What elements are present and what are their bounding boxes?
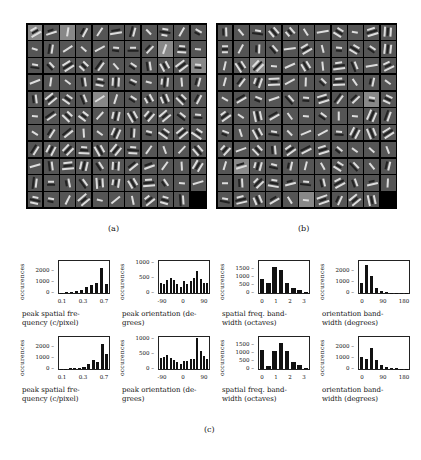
filter-cell bbox=[191, 108, 206, 123]
histogram-bar bbox=[279, 270, 283, 293]
histogram-bar bbox=[390, 293, 394, 294]
y-tick-label: 2000 – bbox=[332, 267, 354, 273]
filter-cell bbox=[158, 108, 173, 123]
x-axis-label: peak orientation (de-grees) bbox=[122, 310, 214, 327]
y-tick-label: 1000 – bbox=[332, 354, 354, 360]
filter-cell bbox=[191, 159, 206, 174]
histogram: occurences0 –500 –1000 –-90090peak orien… bbox=[118, 328, 218, 418]
histogram-bar bbox=[176, 284, 178, 293]
x-axis-label: orientation band-width (degrees) bbox=[322, 310, 414, 327]
histogram-bar bbox=[173, 280, 175, 293]
filter-cell bbox=[76, 41, 91, 56]
histogram-bar bbox=[87, 364, 90, 369]
filter-cell bbox=[125, 58, 140, 73]
filter-cell bbox=[44, 92, 59, 107]
filter-cell bbox=[266, 92, 281, 107]
filter-cell bbox=[348, 142, 363, 157]
filter-cell bbox=[60, 142, 75, 157]
filter-cell bbox=[218, 75, 233, 90]
filter-cell bbox=[125, 41, 140, 56]
histogram-bar bbox=[193, 278, 195, 293]
filter-cell bbox=[266, 142, 281, 157]
histogram-bar bbox=[272, 267, 276, 293]
filter-cell bbox=[125, 92, 140, 107]
filter-cell bbox=[332, 58, 347, 73]
y-tick-label: 1000 – bbox=[232, 273, 254, 279]
filter-cell bbox=[283, 25, 298, 40]
filter-cell bbox=[158, 192, 173, 207]
filter-cell bbox=[234, 92, 249, 107]
filter-cell bbox=[332, 41, 347, 56]
histogram-bar bbox=[375, 360, 379, 369]
filter-cell bbox=[142, 58, 157, 73]
x-axis-label: peak spatial fre-quency (c/pixel) bbox=[22, 310, 114, 327]
x-tick-label: 0.7 bbox=[98, 374, 110, 380]
filter-cell bbox=[191, 192, 206, 207]
filter-cell bbox=[218, 159, 233, 174]
y-tick-label: 1000 – bbox=[32, 354, 54, 360]
filter-cell bbox=[332, 175, 347, 190]
filter-cell bbox=[191, 92, 206, 107]
x-tick-label: -90 bbox=[156, 374, 168, 380]
filter-cell bbox=[60, 192, 75, 207]
filter-cell bbox=[299, 75, 314, 90]
x-tick-label: 0 bbox=[356, 374, 368, 380]
filter-cell bbox=[266, 41, 281, 56]
filter-cell bbox=[28, 25, 43, 40]
plot-area bbox=[158, 260, 210, 294]
histogram-bar bbox=[266, 283, 270, 293]
plot-area bbox=[258, 336, 310, 370]
x-tick-label: -90 bbox=[156, 298, 168, 304]
filter-cell bbox=[218, 58, 233, 73]
filter-cell bbox=[93, 142, 108, 157]
histogram-bar bbox=[73, 368, 76, 369]
filter-cell bbox=[28, 92, 43, 107]
histogram-bar bbox=[69, 368, 72, 369]
filter-cell bbox=[109, 75, 124, 90]
histogram-bar bbox=[64, 369, 67, 370]
x-axis-label: peak spatial fre-quency (c/pixel) bbox=[22, 386, 114, 403]
filter-cell bbox=[250, 41, 265, 56]
filter-cell bbox=[315, 175, 330, 190]
filter-cell bbox=[60, 125, 75, 140]
histogram-bar bbox=[400, 369, 404, 370]
histogram-bar bbox=[186, 284, 188, 293]
histogram-bar bbox=[297, 290, 301, 293]
y-tick-label: 500 – bbox=[232, 281, 254, 287]
filter-cell bbox=[364, 159, 379, 174]
filter-cell bbox=[283, 142, 298, 157]
filter-cell bbox=[44, 25, 59, 40]
x-tick-label: 0 bbox=[256, 298, 268, 304]
filter-cell bbox=[283, 58, 298, 73]
filter-cell bbox=[76, 159, 91, 174]
filter-cell bbox=[93, 125, 108, 140]
filter-cell bbox=[76, 108, 91, 123]
x-tick-label: 90 bbox=[198, 298, 210, 304]
filter-cell bbox=[315, 142, 330, 157]
filter-cell bbox=[315, 125, 330, 140]
filter-cell bbox=[364, 75, 379, 90]
filter-cell bbox=[283, 92, 298, 107]
histogram-bar bbox=[206, 283, 208, 293]
filter-cell bbox=[44, 41, 59, 56]
filter-cell bbox=[218, 192, 233, 207]
histogram-bar bbox=[160, 283, 162, 293]
filter-cell bbox=[266, 175, 281, 190]
y-tick-label: 500 – bbox=[132, 274, 154, 280]
y-tick-label: 2000 – bbox=[332, 343, 354, 349]
filter-cell bbox=[283, 175, 298, 190]
x-tick-label: 0.1 bbox=[56, 298, 68, 304]
filter-cell bbox=[125, 125, 140, 140]
filter-cell bbox=[109, 192, 124, 207]
histogram-bar bbox=[360, 283, 364, 293]
filter-cell bbox=[60, 25, 75, 40]
x-tick-label: 90 bbox=[198, 374, 210, 380]
histogram-bar bbox=[183, 281, 185, 293]
histogram-bar bbox=[190, 281, 192, 293]
filter-cell bbox=[299, 25, 314, 40]
filter-cell bbox=[28, 108, 43, 123]
filter-cell bbox=[174, 58, 189, 73]
histogram-bar bbox=[186, 361, 188, 369]
filter-cell bbox=[234, 41, 249, 56]
filter-cell bbox=[44, 125, 59, 140]
